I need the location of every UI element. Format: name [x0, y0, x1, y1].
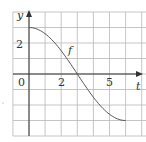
function-graph: y t 0 2 5 2 f — [0, 0, 146, 142]
curve-label-f: f — [67, 44, 74, 57]
x-axis-label: t — [136, 80, 141, 93]
stray-dot — [2, 102, 3, 103]
x-tick-label-2: 2 — [58, 76, 65, 89]
y-tick-label-2: 2 — [16, 38, 23, 51]
x-tick-label-5: 5 — [106, 76, 113, 89]
y-axis-arrow-icon — [26, 10, 32, 17]
y-axis-label: y — [16, 9, 24, 22]
origin-label: 0 — [18, 76, 25, 89]
